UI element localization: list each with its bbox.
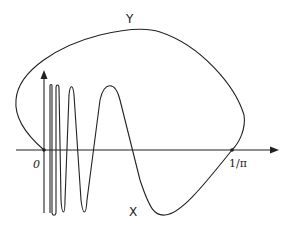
one-over-pi-label: 1/π bbox=[229, 157, 247, 170]
diagram: 0 1/π Y X bbox=[0, 0, 296, 235]
x-axis-arrow-icon bbox=[270, 147, 279, 154]
y-label: Y bbox=[125, 12, 134, 26]
one-over-pi-point bbox=[230, 148, 234, 152]
y-axis-arrow-icon bbox=[41, 70, 48, 79]
origin-label: 0 bbox=[33, 158, 40, 171]
origin-point bbox=[42, 148, 46, 152]
x-label: X bbox=[129, 205, 137, 219]
